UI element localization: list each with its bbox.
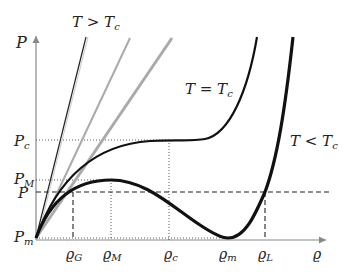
critical-isotherm	[36, 37, 257, 238]
subcritical-label: T < Tc	[290, 132, 338, 151]
critical-label: T = Tc	[185, 80, 233, 99]
pm-min-label: Pm	[13, 228, 34, 247]
rho-g-label: ϱG	[66, 246, 82, 263]
subcritical-isotherm	[36, 37, 293, 238]
supercritical-label: T > Tc	[72, 13, 120, 32]
pc-label: Pc	[13, 132, 30, 151]
isotherm-diagram: P Pc PM P Pm ϱG ϱM ϱc ϱm ϱL ϱ T > Tc T =…	[0, 0, 346, 276]
rho-l-label: ϱL	[258, 246, 273, 263]
p-label: P	[17, 184, 29, 202]
rho-max-label: ϱM	[103, 246, 122, 263]
supercritical-isotherms	[36, 37, 172, 238]
rho-c-label: ϱc	[164, 246, 178, 263]
rho-min-label: ϱm	[219, 246, 237, 263]
axes	[36, 36, 326, 240]
y-axis-label: P	[15, 33, 27, 52]
x-axis-label: ϱ	[313, 246, 322, 262]
dashed-guides	[36, 192, 330, 240]
